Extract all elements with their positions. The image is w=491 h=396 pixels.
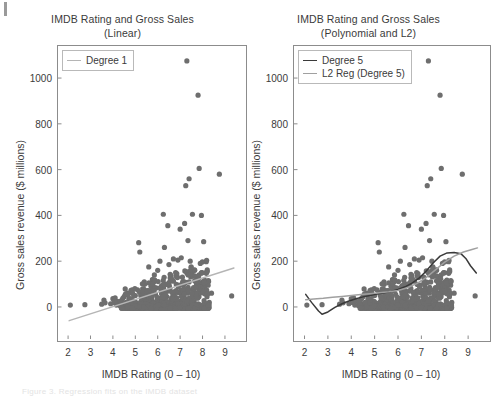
legend-item[interactable]: Degree 5 — [303, 54, 405, 67]
x-tick-label: 6 — [150, 347, 166, 358]
x-tick-label: 5 — [127, 347, 143, 358]
data-point — [358, 306, 363, 311]
data-point — [420, 255, 425, 260]
legend-item[interactable]: L2 Reg (Degree 5) — [303, 67, 405, 80]
data-point — [197, 166, 202, 171]
data-point — [432, 212, 437, 217]
data-point — [379, 281, 384, 286]
data-point — [177, 305, 182, 310]
data-point — [411, 297, 416, 302]
scatter-series — [304, 58, 477, 311]
x-tick-label: 5 — [367, 347, 383, 358]
y-tick-label: 800 — [23, 118, 52, 129]
data-point — [190, 212, 195, 217]
data-point — [206, 303, 211, 308]
x-axis-label-linear: IMDB Rating (0 – 10) — [57, 368, 245, 380]
data-point — [319, 302, 324, 307]
x-tick-label: 2 — [297, 347, 313, 358]
data-point — [423, 221, 428, 226]
data-point — [396, 302, 401, 307]
scatter-series — [68, 58, 235, 311]
data-point — [162, 292, 167, 297]
data-point — [436, 292, 441, 297]
data-point — [434, 306, 439, 311]
chart-title-main: IMDB Rating and Gross Sales — [297, 13, 440, 25]
y-tick-label: 400 — [23, 210, 52, 221]
x-tick-label: 6 — [390, 347, 406, 358]
x-tick-label: 7 — [413, 347, 429, 358]
data-point — [229, 293, 234, 298]
data-point — [406, 223, 411, 228]
data-point — [195, 93, 200, 98]
data-point — [161, 212, 166, 217]
data-point — [170, 297, 175, 302]
data-point — [427, 238, 432, 243]
footer-caption-ghost: Figure 3. Regression fits on the IMDB da… — [22, 387, 197, 396]
data-point — [368, 306, 373, 311]
data-point — [186, 176, 191, 181]
x-tick-label: 8 — [195, 347, 211, 358]
legend-linear[interactable]: Degree 1 — [62, 50, 134, 71]
data-point — [376, 240, 381, 245]
data-point — [204, 258, 209, 263]
data-point — [183, 183, 188, 188]
data-point — [162, 245, 167, 250]
data-point — [426, 299, 431, 304]
y-tick-label: 1000 — [23, 73, 52, 84]
data-point — [155, 268, 160, 273]
x-tick-label: 8 — [437, 347, 453, 358]
x-tick-label: 4 — [105, 347, 121, 358]
data-point — [199, 213, 204, 218]
y-tick-label: 0 — [23, 301, 52, 312]
data-point — [398, 259, 403, 264]
data-point — [157, 259, 162, 264]
legend-item-label: Degree 5 — [322, 54, 363, 67]
data-point — [443, 239, 448, 244]
data-point — [123, 291, 128, 296]
x-tick-label: 9 — [217, 347, 233, 358]
data-point — [166, 262, 171, 267]
data-point — [171, 256, 176, 261]
data-point — [444, 306, 449, 311]
data-point — [431, 291, 436, 296]
data-point — [185, 238, 190, 243]
x-tick-label: 9 — [460, 347, 476, 358]
chart-panel-linear: IMDB Rating and Gross Sales (Linear) Gro… — [0, 0, 245, 396]
chart-title-main: IMDB Rating and Gross Sales — [51, 13, 194, 25]
y-tick-label: 400 — [259, 210, 288, 221]
data-point — [403, 292, 408, 297]
data-point — [137, 249, 142, 254]
data-point — [401, 278, 406, 283]
data-point — [123, 286, 128, 291]
data-point — [82, 302, 87, 307]
data-point — [152, 272, 157, 277]
data-point — [189, 291, 194, 296]
data-point — [444, 280, 449, 285]
data-point — [426, 58, 431, 63]
data-point — [378, 295, 383, 300]
data-point — [437, 93, 442, 98]
legend-item-label: L2 Reg (Degree 5) — [322, 67, 405, 80]
y-tick-label: 600 — [23, 164, 52, 175]
plot-area-polynomial — [293, 45, 491, 342]
data-point — [189, 264, 194, 269]
legend-item[interactable]: Degree 1 — [67, 54, 127, 67]
figure-canvas: IMDB Rating and Gross Sales (Linear) Gro… — [0, 0, 491, 396]
data-point — [389, 306, 394, 311]
data-point — [202, 306, 207, 311]
y-tick-label: 800 — [259, 118, 288, 129]
data-point — [202, 280, 207, 285]
chart-title-sub: (Linear) — [0, 26, 245, 40]
data-point — [304, 303, 309, 308]
data-point — [395, 268, 400, 273]
data-point — [175, 275, 180, 280]
data-point — [201, 239, 206, 244]
data-point — [162, 303, 167, 308]
data-point — [184, 58, 189, 63]
data-point — [155, 295, 160, 300]
plot-canvas-polynomial — [294, 46, 488, 339]
data-point — [449, 303, 454, 308]
data-point — [392, 272, 397, 277]
legend-line-swatch-icon — [67, 60, 81, 61]
legend-polynomial[interactable]: Degree 5 L2 Reg (Degree 5) — [298, 50, 412, 84]
